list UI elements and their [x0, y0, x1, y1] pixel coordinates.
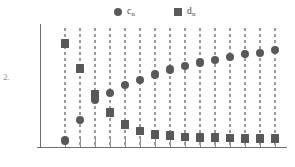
chart-legend: cn dn [108, 4, 238, 22]
data-point-d-15 [271, 134, 280, 143]
stem-line-7 [154, 28, 156, 147]
data-point-d-6 [136, 127, 145, 136]
data-point-d-12 [226, 134, 235, 143]
data-point-d-11 [211, 133, 220, 142]
data-point-c-14 [256, 49, 265, 58]
data-point-c-4 [106, 89, 115, 98]
data-point-c-8 [166, 65, 175, 74]
legend-label-dn-subscript: n [192, 10, 196, 18]
data-point-c-6 [136, 76, 145, 85]
legend-item-cn: cn [114, 4, 135, 20]
stem-line-9 [184, 28, 186, 147]
data-point-c-1 [61, 136, 70, 145]
stem-line-13 [244, 28, 246, 147]
stem-line-8 [169, 28, 171, 147]
data-point-c-15 [271, 46, 280, 55]
legend-item-dn: dn [174, 4, 195, 20]
data-point-c-12 [226, 53, 235, 62]
data-point-c-5 [121, 81, 130, 90]
problem-number-label: 2. [3, 72, 10, 82]
legend-label-dn: dn [187, 7, 195, 18]
stem-line-12 [229, 28, 231, 147]
stem-line-3 [94, 28, 96, 147]
legend-circle-marker-icon [114, 8, 122, 16]
legend-label-cn-subscript: n [131, 10, 135, 18]
stem-line-10 [199, 28, 201, 147]
data-point-d-4 [106, 108, 115, 117]
legend-square-marker-icon [174, 8, 182, 16]
data-point-c-7 [151, 70, 160, 79]
data-point-d-14 [256, 134, 265, 143]
stem-line-4 [109, 28, 111, 147]
data-point-d-9 [181, 133, 190, 142]
stem-line-14 [259, 28, 261, 147]
stem-line-11 [214, 28, 216, 147]
data-point-c-11 [211, 56, 220, 65]
data-point-c-3 [91, 95, 100, 104]
stem-line-2 [79, 28, 81, 147]
data-point-d-13 [241, 134, 250, 143]
data-point-c-10 [196, 58, 205, 67]
plot-area [40, 24, 290, 148]
data-point-d-1 [61, 39, 70, 48]
data-point-d-2 [76, 64, 85, 73]
data-point-d-10 [196, 133, 205, 142]
data-point-c-13 [241, 50, 250, 59]
legend-label-cn: cn [127, 7, 135, 18]
data-point-c-2 [76, 116, 85, 125]
data-point-d-7 [151, 130, 160, 139]
data-point-c-9 [181, 62, 190, 71]
data-point-d-5 [121, 120, 130, 129]
data-point-d-8 [166, 131, 175, 140]
convergence-plot-figure: 2. cn dn [0, 0, 295, 167]
y-axis [40, 24, 41, 148]
